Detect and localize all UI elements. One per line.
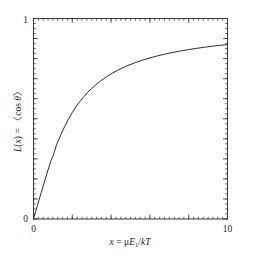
y-axis-min-tick-label: 0	[23, 214, 28, 224]
x-axis-min-tick-label: 0	[31, 224, 36, 234]
x-title-variable: x	[108, 237, 114, 247]
y-axis-title: L(x)=〈cos θ〉	[13, 86, 24, 153]
y-title-angle-open: 〈	[13, 116, 23, 126]
chart-figure: 0 10 0 1 x=μE1/kT L(x)=〈cos θ〉	[0, 0, 262, 262]
x-title-t: T	[145, 237, 151, 247]
y-title-equals: =	[13, 128, 23, 133]
x-title-equals: =	[116, 237, 121, 247]
y-title-paren-close: )	[13, 136, 24, 139]
svg-text:L(x)=〈cos θ〉: L(x)=〈cos θ〉	[13, 86, 24, 153]
langevin-function-plot: 0 10 0 1 x=μE1/kT L(x)=〈cos θ〉	[0, 0, 262, 262]
y-title-cos: cos	[13, 101, 23, 116]
figure-background	[0, 0, 262, 262]
x-axis-max-tick-label: 10	[223, 224, 233, 234]
y-title-angle-close: 〉	[13, 86, 23, 96]
y-axis-max-tick-label: 1	[23, 15, 28, 25]
